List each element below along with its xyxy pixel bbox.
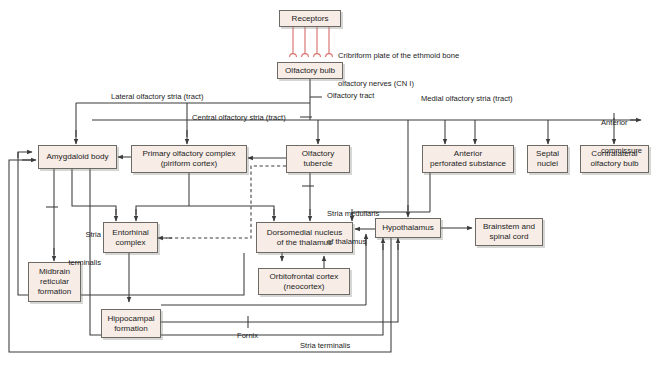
node-brainstem-label-line2: spinal cord <box>479 232 539 242</box>
node-aps-label-line1: Anterior <box>426 149 510 159</box>
wire-amygdala-to-entorhinal <box>72 169 116 215</box>
node-amygdaloid-body-label: Amygdaloid body <box>42 152 113 162</box>
node-olfactory-bulb[interactable]: Olfactory bulb <box>277 62 343 79</box>
node-hippocampus-label-line1: Hippocampal <box>105 314 157 324</box>
label-stria-terminalis-upper-line2: terminalis <box>29 258 101 267</box>
label-stria-terminalis-upper: Stria terminalis <box>29 211 101 287</box>
node-hippocampal-formation[interactable]: Hippocampal formation <box>101 309 161 338</box>
label-anterior-commissure: Anterior commissure <box>601 99 642 175</box>
node-septal-label-line1: Septal <box>531 149 564 159</box>
node-entorhinal-complex[interactable]: Entorhinal complex <box>103 222 158 253</box>
node-septal-nuclei[interactable]: Septal nuclei <box>527 145 568 173</box>
label-stria-terminalis-lower: Stria terminalis <box>300 341 350 350</box>
label-cribriform-line2: olfactory nerves (CN I) <box>338 79 459 88</box>
olfactory-pathways-diagram: Receptors Olfactory bulb Amygdaloid body… <box>0 0 662 365</box>
node-ofc-label-line1: Orbitofrontal cortex <box>262 272 346 282</box>
node-tubercle-label-line2: tubercle <box>290 159 346 169</box>
node-primary-olfactory-complex[interactable]: Primary olfactory complex (piriform cort… <box>131 145 247 173</box>
node-hippocampus-label-line2: formation <box>105 324 157 334</box>
label-stria-medullaris-line2: of thalamus <box>327 237 379 246</box>
node-brainstem-spinal-cord[interactable]: Brainstem and spinal cord <box>475 218 543 246</box>
wire-poc-to-dmn <box>189 206 274 215</box>
label-central-olfactory-stria: Central olfactory stria (tract) <box>192 113 286 122</box>
node-tubercle-label-line1: Olfactory <box>290 149 346 159</box>
olfactory-nerve-fibers <box>290 27 333 57</box>
label-stria-medullaris: Stria medullaris of thalamus <box>327 190 379 266</box>
node-amygdaloid-body[interactable]: Amygdaloid body <box>38 145 117 169</box>
node-brainstem-label-line1: Brainstem and <box>479 222 539 232</box>
label-anterior-commissure-line2: commissure <box>601 146 642 155</box>
node-poc-label-line1: Primary olfactory complex <box>135 149 243 159</box>
label-medial-olfactory-stria: Medial olfactory stria (tract) <box>421 94 513 103</box>
node-hypothalamus-label: Hypothalamus <box>379 223 437 233</box>
label-stria-medullaris-line1: Stria medullaris <box>327 209 379 218</box>
node-receptors[interactable]: Receptors <box>279 10 341 27</box>
label-stria-terminalis-upper-line1: Stria <box>29 230 101 239</box>
node-poc-label-line2: (piriform cortex) <box>135 159 243 169</box>
label-anterior-commissure-line1: Anterior <box>601 118 642 127</box>
node-aps-label-line2: perforated substance <box>426 159 510 169</box>
node-receptors-label: Receptors <box>283 14 337 24</box>
node-ofc-label-line2: (neocortex) <box>262 282 346 292</box>
label-olfactory-tract: Olfactory tract <box>327 91 374 100</box>
node-orbitofrontal-cortex[interactable]: Orbitofrontal cortex (neocortex) <box>258 268 350 295</box>
node-hypothalamus[interactable]: Hypothalamus <box>375 218 441 238</box>
node-entorhinal-label-line1: Entorhinal <box>107 228 154 238</box>
label-cribriform-line1: Cribriform plate of the ethmoid bone <box>338 51 459 60</box>
label-fornix: Fornix <box>237 331 258 340</box>
node-anterior-perforated-substance[interactable]: Anterior perforated substance <box>422 145 514 173</box>
node-entorhinal-label-line2: complex <box>107 238 154 248</box>
label-lateral-olfactory-stria: Lateral olfactory stria (tract) <box>111 92 203 101</box>
node-midbrain-label-line3: formation <box>32 287 77 297</box>
node-olfactory-tubercle[interactable]: Olfactory tubercle <box>286 145 350 173</box>
node-septal-label-line2: nuclei <box>531 159 564 169</box>
node-olfactory-bulb-label: Olfactory bulb <box>281 66 339 76</box>
connector-layer <box>0 0 662 365</box>
